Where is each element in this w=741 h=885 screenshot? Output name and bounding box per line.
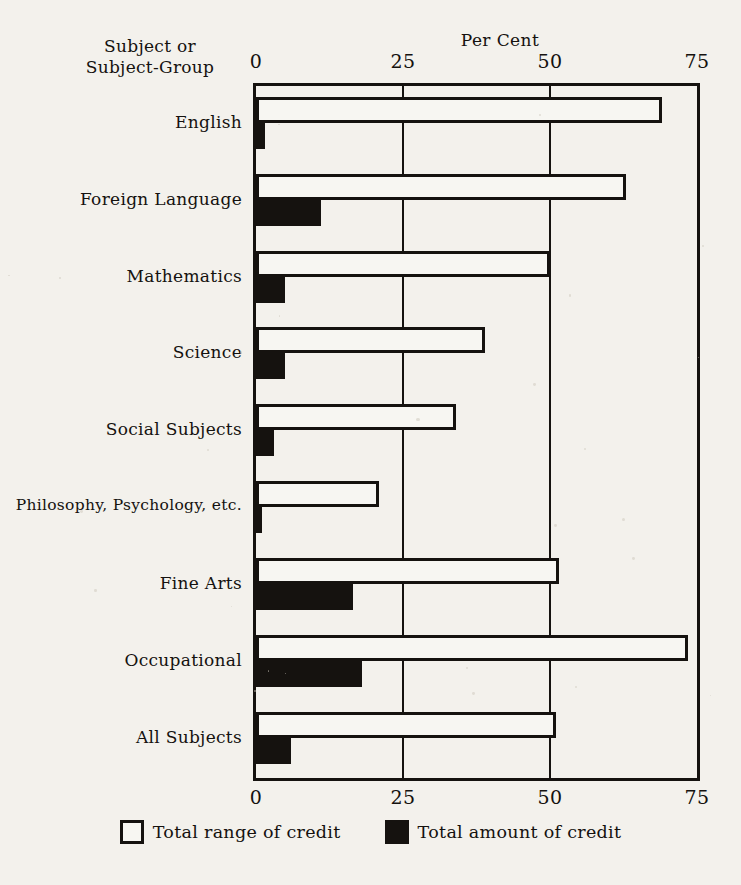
- bar-amount-4: [256, 430, 274, 456]
- bar-range-2: [256, 251, 550, 277]
- bar-range-0: [256, 97, 662, 123]
- x-tick-label-bottom-0: 0: [250, 786, 263, 808]
- category-label-5: Philosophy, Psychology, etc.: [16, 496, 242, 514]
- bar-range-5: [256, 481, 379, 507]
- legend-label-0: Total range of credit: [153, 822, 341, 842]
- x-tick-label-top-75: 75: [684, 50, 709, 72]
- scan-speck: [622, 518, 625, 521]
- bar-range-7: [256, 635, 688, 661]
- corner-label-line-1: Subject or: [60, 36, 240, 57]
- open-square-icon: [120, 820, 144, 844]
- chart-title: Per Cent: [430, 30, 570, 50]
- chart-page: Subject or Subject-Group Per Cent 025507…: [0, 0, 741, 885]
- bar-range-8: [256, 712, 556, 738]
- bar-range-6: [256, 558, 559, 584]
- bar-amount-1: [256, 200, 321, 226]
- bar-range-4: [256, 404, 456, 430]
- scan-speck: [278, 124, 279, 125]
- category-label-7: Occupational: [124, 650, 242, 670]
- scan-speck: [80, 510, 83, 513]
- category-label-1: Foreign Language: [80, 189, 242, 209]
- corner-label-line-2: Subject-Group: [60, 57, 240, 78]
- bar-amount-0: [256, 123, 265, 149]
- scan-speck: [240, 351, 242, 353]
- scan-speck: [710, 695, 711, 696]
- category-labels: EnglishForeign LanguageMathematicsScienc…: [0, 83, 250, 781]
- chart-legend: Total range of creditTotal amount of cre…: [0, 820, 741, 844]
- legend-item-0: Total range of credit: [120, 820, 341, 844]
- bar-amount-3: [256, 353, 285, 379]
- category-label-4: Social Subjects: [106, 419, 242, 439]
- x-tick-label-top-25: 25: [390, 50, 415, 72]
- plot-area: [253, 83, 700, 781]
- scan-speck: [416, 418, 419, 421]
- bar-range-3: [256, 327, 485, 353]
- scan-speck: [94, 589, 97, 592]
- bar-amount-6: [256, 584, 353, 610]
- scan-speck: [472, 692, 475, 695]
- x-tick-label-bottom-50: 50: [537, 786, 562, 808]
- bar-amount-2: [256, 277, 285, 303]
- category-label-0: English: [175, 112, 242, 132]
- category-label-3: Science: [173, 342, 242, 362]
- scan-speck: [59, 277, 61, 279]
- scan-speck: [702, 245, 704, 247]
- legend-item-1: Total amount of credit: [385, 820, 622, 844]
- category-label-8: All Subjects: [136, 727, 242, 747]
- x-tick-label-top-50: 50: [537, 50, 562, 72]
- bar-amount-7: [256, 661, 362, 687]
- x-tick-label-bottom-75: 75: [684, 786, 709, 808]
- x-tick-label-top-0: 0: [250, 50, 263, 72]
- category-label-2: Mathematics: [127, 266, 242, 286]
- x-tick-label-bottom-25: 25: [390, 786, 415, 808]
- category-label-6: Fine Arts: [160, 573, 242, 593]
- bar-amount-8: [256, 738, 291, 764]
- bar-range-1: [256, 174, 626, 200]
- filled-square-icon: [385, 820, 409, 844]
- bar-amount-5: [256, 507, 262, 533]
- legend-label-1: Total amount of credit: [418, 822, 622, 842]
- axis-corner-label: Subject or Subject-Group: [60, 36, 240, 79]
